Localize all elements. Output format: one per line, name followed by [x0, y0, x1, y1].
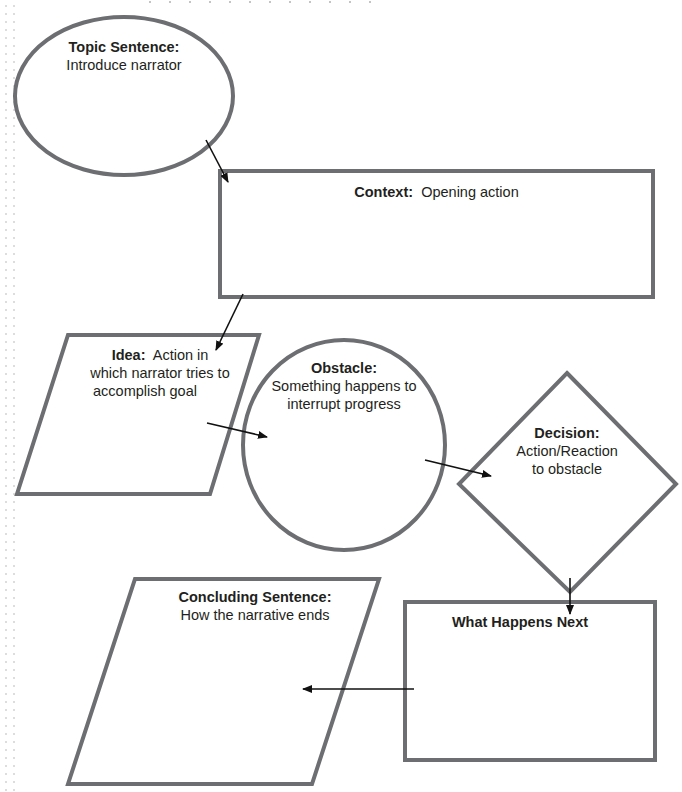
decision-title: Decision: — [507, 424, 627, 442]
obstacle-body-line2: interrupt progress — [264, 395, 424, 413]
decision-body-line1: Action/Reaction — [507, 442, 627, 460]
obstacle-body-line1: Something happens to — [264, 377, 424, 395]
topic-sentence-label: Topic Sentence: Introduce narrator — [44, 38, 204, 74]
decision-label: Decision: Action/Reaction to obstacle — [507, 424, 627, 478]
context-title: Context: — [354, 184, 413, 200]
concluding-sentence-body: How the narrative ends — [160, 606, 350, 624]
concluding-sentence-title: Concluding Sentence: — [160, 588, 350, 606]
idea-label: Idea: Action in which narrator tries to … — [70, 346, 250, 400]
context-body: Opening action — [421, 184, 519, 200]
idea-body-line3: accomplish goal — [70, 382, 220, 400]
what-happens-next-label: What Happens Next — [440, 613, 600, 631]
decision-body-line2: to obstacle — [507, 460, 627, 478]
idea-title: Idea: — [112, 347, 146, 363]
context-label: Context: Opening action — [220, 183, 653, 201]
decision-diamond — [459, 373, 676, 592]
topic-sentence-title: Topic Sentence: — [44, 38, 204, 56]
topic-sentence-body: Introduce narrator — [44, 56, 204, 74]
obstacle-title: Obstacle: — [264, 359, 424, 377]
arrow-topic-to-context — [206, 140, 228, 182]
obstacle-label: Obstacle: Something happens to interrupt… — [264, 359, 424, 413]
concluding-sentence-label: Concluding Sentence: How the narrative e… — [160, 588, 350, 624]
what-happens-next-title: What Happens Next — [440, 613, 600, 631]
idea-body-line2: which narrator tries to — [70, 364, 250, 382]
idea-body-line1: Action in — [153, 347, 209, 363]
